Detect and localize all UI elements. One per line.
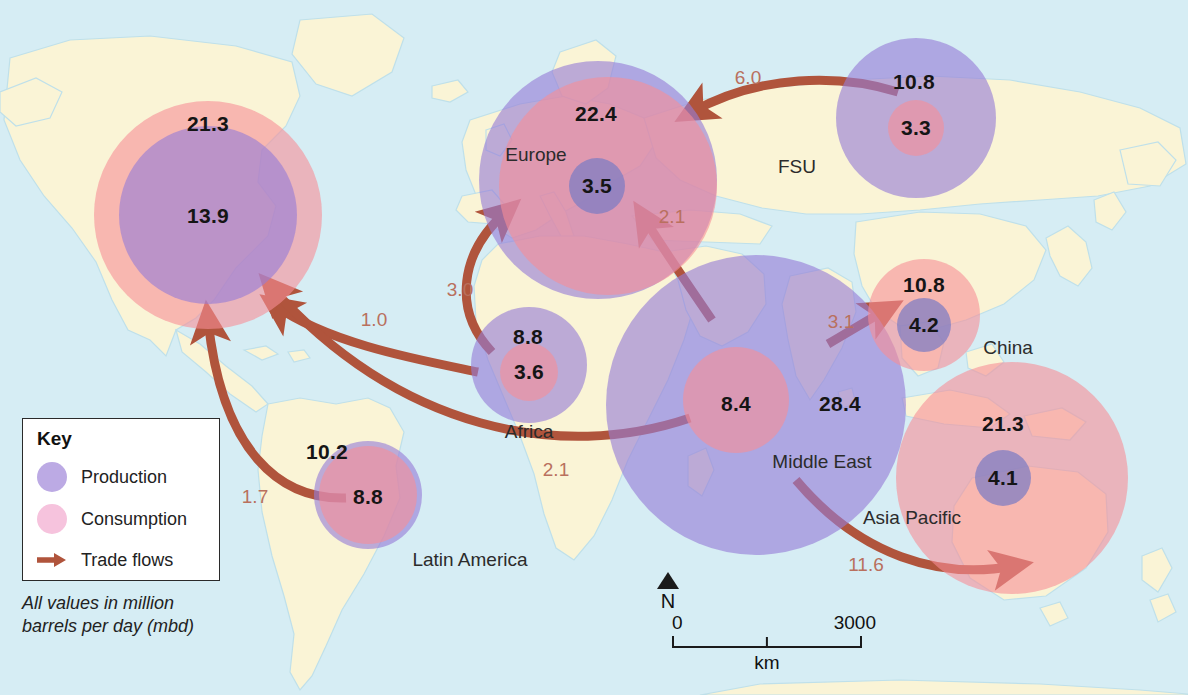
flow-label-africa-europe: 3.0 — [447, 279, 473, 301]
legend-label-production: Production — [81, 467, 167, 488]
compass-north-label: N — [648, 590, 688, 613]
africa-region-label: Africa — [505, 421, 554, 443]
ap-production-value: 4.1 — [988, 466, 1018, 490]
flow-label-fsu-europe: 6.0 — [735, 67, 761, 89]
fsu-region-label: FSU — [778, 156, 816, 178]
latam-consumption-value: 8.8 — [353, 485, 383, 509]
scale-bar: 0 3000 km — [672, 612, 862, 674]
fsu-consumption-value: 3.3 — [901, 116, 931, 140]
china-consumption-value: 10.8 — [903, 273, 945, 297]
ap-consumption-value: 21.3 — [982, 412, 1024, 436]
scale-min-label: 0 — [672, 612, 683, 634]
scale-max-label: 3000 — [834, 612, 876, 634]
europe-region-label: Europe — [505, 144, 566, 166]
legend-note-line-2: barrels per day (mbd) — [22, 615, 252, 638]
latam-region-label: Latin America — [412, 549, 527, 571]
legend-item-consumption: Consumption — [37, 504, 187, 534]
legend-item-production: Production — [37, 462, 167, 492]
me-consumption-value: 8.4 — [721, 392, 751, 416]
na-production-value: 13.9 — [187, 204, 229, 228]
legend-label-trade-flows: Trade flows — [81, 550, 173, 571]
trade-flow-arrow-icon — [37, 545, 67, 575]
scale-bar-midtick — [766, 637, 768, 646]
flow-label-me-na: 2.1 — [543, 459, 569, 481]
production-swatch-icon — [37, 462, 67, 492]
me-region-label: Middle East — [772, 451, 871, 473]
europe-production-value: 3.5 — [582, 174, 612, 198]
me-production-value: 28.4 — [819, 392, 861, 416]
scale-unit-label: km — [672, 652, 862, 674]
legend-units-note: All values in million barrels per day (m… — [22, 592, 252, 638]
legend-note-line-1: All values in million — [22, 592, 252, 615]
china-production-value: 4.2 — [909, 313, 939, 337]
na-consumption-value: 21.3 — [187, 112, 229, 136]
compass-rose: N — [648, 572, 688, 613]
ap-region-label: Asia Pacific — [863, 507, 961, 529]
africa-production-value: 8.8 — [513, 325, 543, 349]
scale-bar-line — [672, 636, 862, 648]
flow-label-me-asiapac: 11.6 — [848, 554, 884, 576]
flow-label-me-europe: 2.1 — [659, 206, 685, 228]
flow-label-latam-na: 1.7 — [242, 486, 268, 508]
oil-trade-map: 21.3 13.9 22.4 Europe 3.5 10.8 3.3 FSU 8… — [0, 0, 1188, 695]
china-region-label: China — [983, 337, 1033, 359]
africa-consumption-value: 3.6 — [514, 360, 544, 384]
consumption-swatch-icon — [37, 504, 67, 534]
fsu-production-value: 10.8 — [893, 70, 935, 94]
flow-label-me-china: 3.1 — [828, 311, 854, 333]
map-legend: Key Production Consumption Trade flows — [22, 418, 220, 581]
legend-label-consumption: Consumption — [81, 509, 187, 530]
latam-production-value: 10.2 — [306, 440, 348, 464]
legend-title: Key — [37, 428, 72, 450]
europe-consumption-value: 22.4 — [575, 102, 617, 126]
north-arrow-icon — [657, 572, 679, 589]
scale-bar-labels: 0 3000 — [672, 612, 862, 636]
flow-label-africa-na: 1.0 — [361, 309, 387, 331]
legend-item-trade-flows: Trade flows — [37, 545, 173, 575]
